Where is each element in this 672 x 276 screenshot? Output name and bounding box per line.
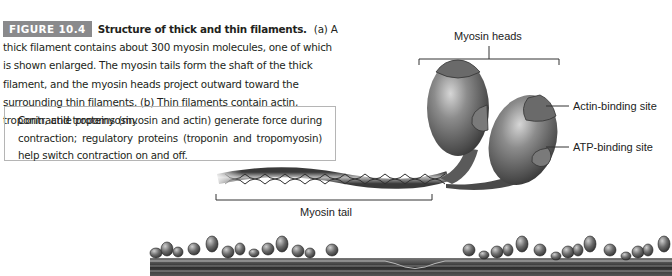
atp-binding-site-label: ATP-binding site [573, 141, 653, 153]
myosin-head-icon [427, 60, 489, 156]
myosin-heads-label: Myosin heads [454, 30, 522, 42]
myosin-tail-label: Myosin tail [300, 206, 352, 218]
myosin-tail-icon [212, 168, 448, 190]
myosin-tail-bracket [216, 194, 432, 200]
actin-binding-site-label: Actin-binding site [573, 100, 657, 112]
myosin-head-icon [477, 86, 568, 194]
thick-filament-icon [150, 236, 672, 276]
myosin-heads-bracket [419, 46, 559, 65]
myosin-diagram [0, 0, 672, 276]
